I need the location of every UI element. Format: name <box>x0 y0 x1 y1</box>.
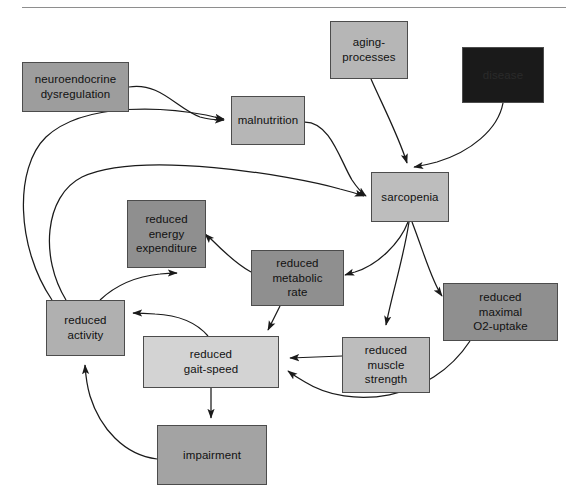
edge-sarcopenia-to-o2-uptake <box>412 222 442 296</box>
edge-disease-to-sarcopenia <box>414 103 503 167</box>
edge-activity-to-energy-expenditure <box>100 273 177 300</box>
node-label-line3: O2-uptake <box>469 319 532 334</box>
node-aging-processes[interactable]: aging- processes <box>330 21 408 79</box>
node-label-line3: rate <box>268 285 326 300</box>
node-sarcopenia[interactable]: sarcopenia <box>371 172 449 222</box>
node-label-line1: reduced <box>361 343 411 358</box>
edge-aging-to-sarcopenia <box>371 79 407 163</box>
node-label-line3: expenditure <box>132 241 201 256</box>
node-label-line3: strength <box>361 372 411 387</box>
node-label-line1: reduced <box>132 212 201 227</box>
node-label-line1: impairment <box>179 448 245 463</box>
node-disease[interactable]: disease <box>462 47 544 103</box>
edge-malnutrition-to-sarcopenia <box>305 122 366 196</box>
node-neuroendocrine-dysregulation[interactable]: neuroendocrine dysregulation <box>22 62 129 112</box>
node-malnutrition[interactable]: malnutrition <box>231 96 305 145</box>
node-label-line1: reduced <box>469 290 532 305</box>
edge-muscle-strength-to-gait-speed <box>290 356 342 358</box>
node-reduced-maximal-o2-uptake[interactable]: reduced maximal O2-uptake <box>443 283 558 341</box>
node-reduced-metabolic-rate[interactable]: reduced metabolic rate <box>251 250 344 306</box>
node-label-line2: energy <box>132 227 201 242</box>
node-label-line1: neuroendocrine <box>31 72 120 87</box>
node-label-line2: maximal <box>469 305 532 320</box>
edge-gait-speed-to-activity <box>133 313 208 336</box>
node-reduced-muscle-strength[interactable]: reduced muscle strength <box>342 337 430 393</box>
node-label-line1: reduced <box>268 256 326 271</box>
node-label-line1: aging- <box>338 35 399 50</box>
node-label-line2: muscle <box>361 358 411 373</box>
node-label-line2: metabolic <box>268 271 326 286</box>
node-reduced-gait-speed[interactable]: reduced gait-speed <box>143 336 279 388</box>
edge-metabolic-rate-to-energy-expenditure <box>205 234 251 272</box>
node-reduced-activity[interactable]: reduced activity <box>46 300 125 356</box>
node-label-line2: activity <box>60 328 110 343</box>
diagram-canvas: neuroendocrine dysregulation aging- proc… <box>0 0 578 498</box>
edge-sarcopenia-to-metabolic-rate <box>345 222 408 275</box>
node-label-line1: disease <box>479 68 527 83</box>
edge-metabolic-rate-to-gait-speed <box>268 306 280 330</box>
edge-sarcopenia-to-muscle-strength <box>386 222 409 325</box>
node-label-line2: gait-speed <box>180 362 243 377</box>
node-label-line2: dysregulation <box>31 87 120 102</box>
node-label-line1: reduced <box>60 313 110 328</box>
node-label-line2: processes <box>338 50 399 65</box>
edge-neuroendocrine-to-malnutrition <box>129 86 224 120</box>
node-label-line1: sarcopenia <box>377 190 442 205</box>
node-reduced-energy-expenditure[interactable]: reduced energy expenditure <box>127 200 206 268</box>
node-impairment[interactable]: impairment <box>157 425 267 485</box>
node-label-line1: malnutrition <box>234 113 303 128</box>
node-label-line1: reduced <box>180 347 243 362</box>
